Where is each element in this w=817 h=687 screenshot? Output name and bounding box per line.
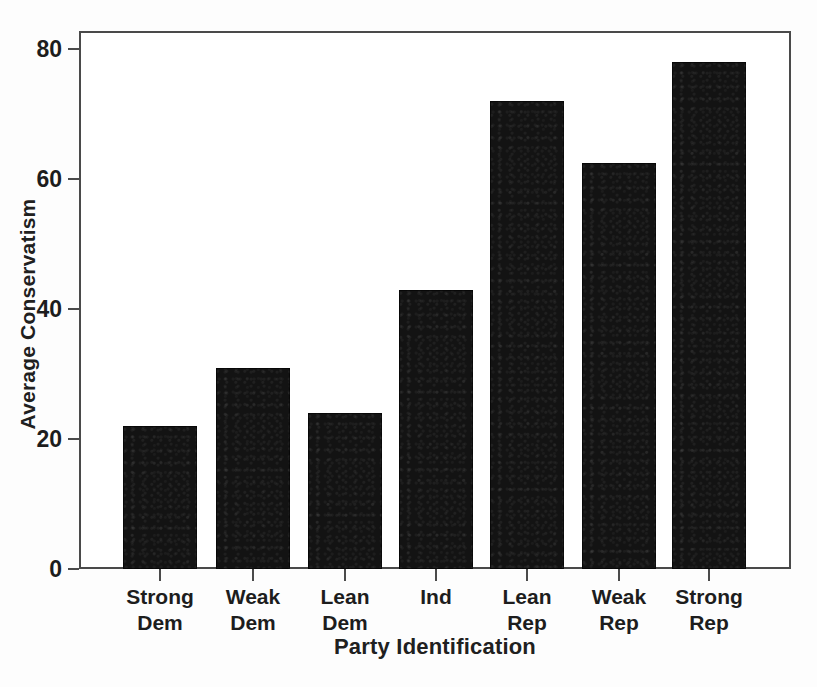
bar xyxy=(308,413,382,569)
y-axis-tick-mark xyxy=(68,308,79,310)
bar xyxy=(216,368,290,570)
bar xyxy=(582,163,656,569)
x-axis-tick-mark xyxy=(252,569,254,581)
x-axis-tick-label: StrongRep xyxy=(649,584,769,636)
y-axis-tick-label: 80 xyxy=(0,35,62,63)
y-axis-tick-mark xyxy=(68,568,79,570)
x-axis-tick-mark xyxy=(618,569,620,581)
x-axis-tick-mark xyxy=(159,569,161,581)
bar xyxy=(123,426,197,569)
y-axis-tick-mark xyxy=(68,178,79,180)
x-axis-tick-mark xyxy=(708,569,710,581)
x-axis-tick-mark xyxy=(435,569,437,581)
x-axis-tick-mark xyxy=(344,569,346,581)
x-axis-tick-label-line: Strong xyxy=(649,584,769,610)
x-axis-tick-mark xyxy=(526,569,528,581)
bar xyxy=(490,101,564,569)
y-axis-tick-label: 40 xyxy=(0,295,62,323)
x-axis-tick-label-line: Dem xyxy=(285,610,405,636)
y-axis-tick-label: 20 xyxy=(0,425,62,453)
y-axis-tick-label: 0 xyxy=(0,555,62,583)
bar-chart-figure: Average Conservatism 020406080 StrongDem… xyxy=(0,0,817,687)
y-axis-tick-mark xyxy=(68,438,79,440)
y-axis-tick-label: 60 xyxy=(0,165,62,193)
x-axis-title: Party Identification xyxy=(79,634,791,660)
y-axis-title: Average Conservatism xyxy=(0,0,56,687)
bar xyxy=(399,290,473,570)
bar xyxy=(672,62,746,569)
y-axis-tick-mark xyxy=(68,48,79,50)
x-axis-tick-label-line: Rep xyxy=(649,610,769,636)
